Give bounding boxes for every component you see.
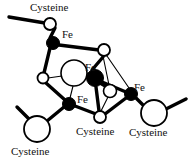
label-fe-center: Fe	[85, 62, 96, 73]
fe-s-cluster-diagram	[0, 0, 191, 166]
sulfur-left	[38, 73, 49, 84]
bond-sbottom-feright	[105, 98, 126, 114]
bond-felowerleft-sbottom	[75, 106, 96, 114]
label-cysteine-top-left: Cysteine	[30, 2, 69, 13]
bond-sleft-felowerleft	[46, 83, 65, 100]
iron-atom-top	[47, 37, 60, 50]
sulfur-cysteine-bottom-left	[24, 116, 50, 142]
sulfur-center-large	[61, 60, 87, 86]
bond-scysbl-chain	[17, 107, 30, 120]
figure-canvas: Cysteine Fe Fe Fe Fe Cysteine Cysteine C…	[0, 0, 191, 166]
sulfur-bottom-center	[94, 111, 106, 123]
sulfur-top-right	[98, 44, 110, 56]
bond-sinner-sbottom	[101, 97, 108, 111]
sulfur-cysteine-bottom-right	[141, 100, 167, 126]
sulfur-inner-small	[104, 85, 117, 98]
bond-felowerleft-scysbl	[47, 107, 64, 121]
sulfur-cysteine-top-left	[44, 18, 56, 30]
bond-fetop-str	[59, 45, 99, 50]
label-cysteine-bottom-left: Cysteine	[11, 146, 50, 157]
label-fe-right: Fe	[134, 82, 145, 93]
label-cysteine-bottom-right: Cysteine	[129, 127, 168, 138]
bond-fecenter-sbottom	[96, 87, 99, 111]
bond-scenter-felowerleft	[70, 86, 73, 98]
bond-sleft-scenter	[48, 76, 62, 78]
label-fe-top: Fe	[62, 29, 73, 40]
label-fe-lower-left: Fe	[77, 94, 88, 105]
bond-cys-tl-chain	[9, 17, 45, 23]
bond-scysbr-chain	[166, 99, 186, 109]
label-cysteine-bottom-center: Cysteine	[76, 126, 115, 137]
bond-str-sinner	[103, 56, 109, 85]
iron-atom-lower-left	[63, 98, 76, 111]
bond-fetop-sleft	[44, 48, 50, 73]
bond-str-feright	[107, 56, 129, 88]
